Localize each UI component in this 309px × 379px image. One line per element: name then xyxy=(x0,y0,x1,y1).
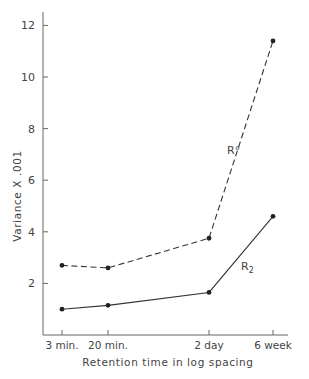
x-axis-label: Retention time in log spacing xyxy=(82,356,253,368)
line-chart: 24681012 3 min.20 min.2 day6 week Retent… xyxy=(0,0,309,379)
y-tick-label: 10 xyxy=(21,71,35,84)
y-tick-label: 6 xyxy=(28,174,35,187)
x-tick-label: 2 day xyxy=(194,339,223,351)
x-tick-label: 3 min. xyxy=(45,339,78,351)
data-point xyxy=(207,236,212,241)
y-tick-label: 8 xyxy=(28,123,35,136)
y-tick-label: 4 xyxy=(28,226,35,239)
y-tick-label: 12 xyxy=(21,19,35,32)
y-axis-label: Variance X .001 xyxy=(11,150,23,242)
axes xyxy=(43,12,288,335)
data-point xyxy=(60,263,65,268)
data-point xyxy=(271,214,276,219)
x-axis-ticks: 3 min.20 min.2 day6 week xyxy=(45,330,292,351)
data-point xyxy=(207,290,212,295)
series-label-r-zero: R° xyxy=(227,144,240,157)
x-tick-label: 6 week xyxy=(254,339,293,351)
y-tick-label: 2 xyxy=(28,277,35,290)
x-tick-label: 20 min. xyxy=(88,339,128,351)
data-point xyxy=(106,303,111,308)
series-line-r-zero xyxy=(62,41,273,268)
y-axis-ticks: 24681012 xyxy=(21,19,48,290)
series-label-r-two: R2 xyxy=(241,260,254,275)
data-point xyxy=(106,266,111,271)
data-point xyxy=(271,38,276,43)
data-point xyxy=(60,307,65,312)
